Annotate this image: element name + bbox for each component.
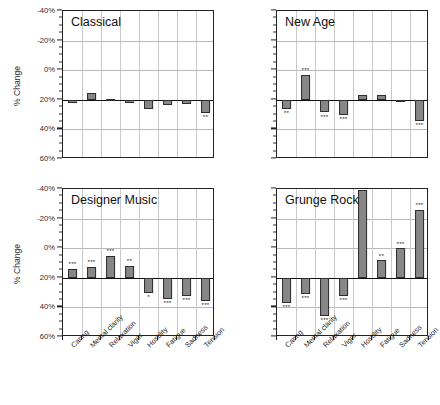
- y-tick-major: [57, 187, 62, 188]
- bar-slot: *: [139, 189, 158, 335]
- y-tick-minor: [273, 135, 276, 136]
- significance-marker: **: [379, 253, 384, 259]
- bar-slot: [353, 11, 372, 157]
- bar-fatigue: [163, 100, 173, 105]
- y-tick-major: [271, 306, 276, 307]
- y-tick-minor: [59, 202, 62, 203]
- bars-layer: **: [63, 11, 213, 157]
- bar-relaxation: [320, 100, 330, 113]
- y-tick-label: -20%: [22, 213, 55, 222]
- y-tick-major: [271, 217, 276, 218]
- y-tick-minor: [273, 91, 276, 92]
- y-tick-minor: [59, 76, 62, 77]
- y-tick-minor: [273, 299, 276, 300]
- y-tick-label: 0%: [22, 243, 55, 252]
- y-tick-minor: [273, 210, 276, 211]
- bar-sadness: [182, 278, 192, 296]
- y-tick-minor: [273, 84, 276, 85]
- y-tick-minor: [273, 47, 276, 48]
- y-tick-major: [57, 276, 62, 277]
- bar-relaxation: [320, 278, 330, 316]
- bar-sadness: [396, 100, 406, 102]
- y-tick-minor: [59, 54, 62, 55]
- y-tick-minor: [59, 328, 62, 329]
- bar-slot: **: [277, 11, 296, 157]
- y-tick-major: [57, 128, 62, 129]
- bar-slot: ***: [296, 11, 315, 157]
- bar-caring: [282, 278, 292, 303]
- y-tick-minor: [59, 299, 62, 300]
- significance-marker: ***: [339, 297, 347, 303]
- significance-marker: **: [284, 110, 289, 116]
- y-tick-major: [271, 247, 276, 248]
- bar-slot: ***: [158, 189, 177, 335]
- bar-mental-clarity: [87, 93, 97, 100]
- bar-slot: [177, 11, 196, 157]
- y-tick-minor: [273, 150, 276, 151]
- y-tick-minor: [273, 328, 276, 329]
- y-tick-minor: [273, 239, 276, 240]
- bar-relaxation: [106, 99, 116, 101]
- bar-slot: ***: [334, 11, 353, 157]
- panel-grunge-rock: ***********************: [276, 188, 428, 336]
- plot-area: *********************: [62, 188, 214, 336]
- bars-layer: *********************: [63, 189, 213, 335]
- bar-hostility: [358, 95, 368, 99]
- y-tick-minor: [273, 54, 276, 55]
- bar-vigor: [125, 266, 135, 278]
- significance-marker: ***: [301, 295, 309, 301]
- bar-slot: ***: [296, 189, 315, 335]
- bar-tension: [201, 278, 211, 301]
- y-tick-minor: [59, 84, 62, 85]
- significance-marker: ***: [415, 202, 423, 208]
- y-tick-minor: [59, 225, 62, 226]
- bar-slot: ***: [82, 189, 101, 335]
- panel-title: Designer Music: [71, 193, 157, 207]
- y-tick-major: [271, 9, 276, 10]
- bar-caring: [282, 100, 292, 109]
- y-tick-minor: [273, 113, 276, 114]
- significance-marker: ***: [301, 67, 309, 73]
- x-tick: [276, 336, 277, 340]
- bar-hostility: [144, 100, 154, 110]
- panel-title: Classical: [71, 15, 121, 29]
- y-tick-major: [271, 157, 276, 158]
- y-tick-minor: [273, 313, 276, 314]
- panel-classical: **: [62, 10, 214, 158]
- y-axis-title: % Change: [12, 244, 22, 284]
- y-tick-minor: [59, 91, 62, 92]
- bar-slot: [372, 11, 391, 157]
- bar-slot: [82, 11, 101, 157]
- significance-marker: ***: [163, 300, 171, 306]
- y-tick-major: [57, 9, 62, 10]
- bar-tension: [415, 100, 425, 121]
- bar-sadness: [182, 100, 192, 104]
- bar-fatigue: [377, 260, 387, 278]
- bar-slot: ***: [353, 189, 372, 335]
- y-tick-minor: [59, 291, 62, 292]
- plot-area: **************: [276, 10, 428, 158]
- y-tick-minor: [59, 313, 62, 314]
- bar-vigor: [339, 100, 349, 115]
- significance-marker: ***: [396, 241, 404, 247]
- y-tick-minor: [59, 61, 62, 62]
- bars-layer: ***********************: [277, 189, 427, 335]
- bar-caring: [68, 269, 78, 278]
- y-tick-major: [57, 217, 62, 218]
- bar-slot: ***: [196, 189, 214, 335]
- y-tick-major: [271, 276, 276, 277]
- bar-sadness: [396, 248, 406, 278]
- plot-area: **: [62, 10, 214, 158]
- significance-marker: ***: [339, 116, 347, 122]
- y-tick-major: [271, 128, 276, 129]
- significance-marker: ***: [106, 248, 114, 254]
- y-tick-minor: [273, 121, 276, 122]
- y-tick-minor: [273, 202, 276, 203]
- bar-fatigue: [377, 95, 387, 99]
- y-tick-minor: [273, 143, 276, 144]
- y-tick-label: 60%: [22, 154, 55, 163]
- significance-marker: **: [203, 114, 208, 120]
- y-tick-major: [57, 157, 62, 158]
- bar-slot: [120, 11, 139, 157]
